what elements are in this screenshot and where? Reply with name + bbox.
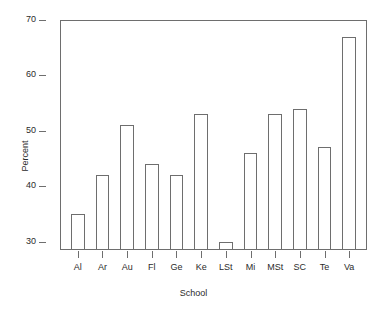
bar-chart: Percent 3040506070 AlArAuFlGeKeLStMiMStS…	[0, 0, 387, 312]
bar	[71, 214, 85, 250]
x-axis-tick-label: LSt	[219, 262, 233, 272]
x-axis-tick	[275, 251, 276, 258]
x-axis-tick	[176, 251, 177, 258]
y-axis-tick-label: 60	[26, 70, 36, 79]
x-axis-tick	[78, 251, 79, 258]
x-axis-tick-label: Va	[344, 262, 354, 272]
y-axis-tick-label: 40	[26, 181, 36, 190]
x-axis-tick-label: Te	[320, 262, 330, 272]
y-axis-tick-label: 30	[26, 237, 36, 246]
x-axis-tick	[201, 251, 202, 258]
y-axis-title: Percent	[20, 140, 30, 171]
x-axis-tick-label: Al	[74, 262, 82, 272]
y-axis-tick	[39, 242, 46, 243]
bar	[96, 175, 110, 250]
x-axis-tick	[251, 251, 252, 258]
y-axis-tick-label: 70	[26, 15, 36, 24]
x-axis-tick-label: MSt	[267, 262, 283, 272]
x-axis-tick-label: Ke	[196, 262, 207, 272]
x-axis-tick	[152, 251, 153, 258]
x-axis-tick	[300, 251, 301, 258]
x-axis-tick-label: Ge	[170, 262, 182, 272]
bar	[145, 164, 159, 250]
y-axis-tick	[39, 131, 46, 132]
x-axis-tick-label: Ar	[98, 262, 107, 272]
x-axis-title: School	[0, 288, 387, 298]
y-axis-tick	[39, 186, 46, 187]
x-axis-tick	[127, 251, 128, 258]
x-axis-tick-label: Fl	[148, 262, 156, 272]
bar	[342, 37, 356, 250]
y-axis-tick	[39, 75, 46, 76]
bar	[268, 114, 282, 250]
x-axis-tick	[102, 251, 103, 258]
x-axis-tick	[325, 251, 326, 258]
x-axis-tick	[349, 251, 350, 258]
bar	[170, 175, 184, 250]
x-axis-tick-label: SC	[294, 262, 307, 272]
bar	[318, 147, 332, 250]
x-axis-tick-label: Mi	[246, 262, 256, 272]
y-axis-tick-label: 50	[26, 126, 36, 135]
bar	[120, 125, 134, 250]
bar	[293, 109, 307, 250]
y-axis: Percent 3040506070	[0, 0, 60, 312]
y-axis-tick	[39, 20, 46, 21]
x-axis-tick-label: Au	[122, 262, 133, 272]
bar	[244, 153, 258, 250]
x-axis-tick	[226, 251, 227, 258]
bar	[194, 114, 208, 250]
bar	[219, 242, 233, 250]
